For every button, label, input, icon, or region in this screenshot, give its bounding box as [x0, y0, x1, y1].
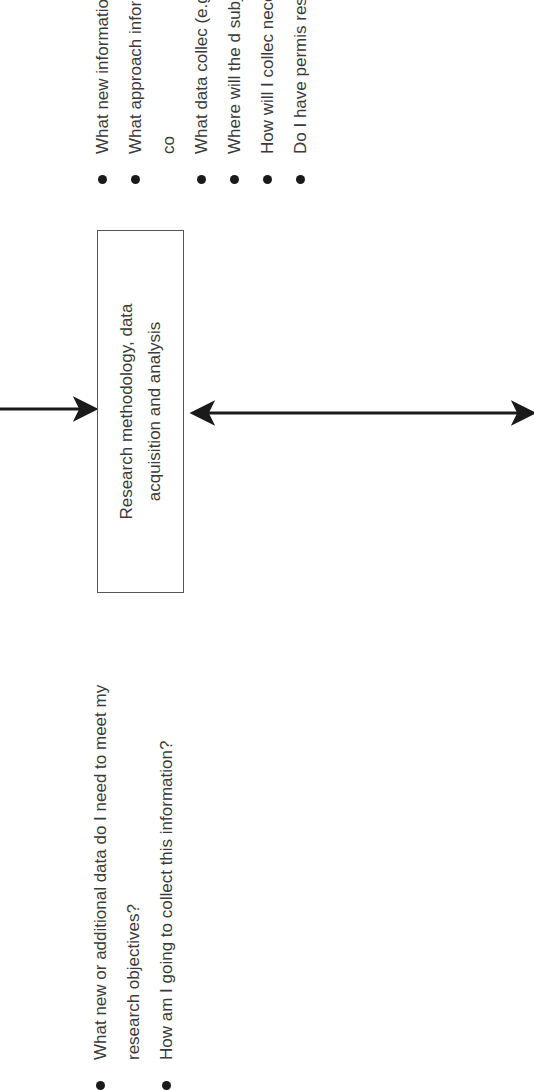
list-item-text: What approach information? (e.g. experim… — [126, 0, 178, 154]
bullet-icon — [230, 175, 239, 184]
list-item: Do I have permis research? — [284, 0, 317, 184]
list-item-text: What new or additional data do I need to… — [91, 685, 143, 1060]
list-item: What new or additional data do I need to… — [84, 620, 150, 1090]
list-item: Where will the d subjects are nee — [218, 0, 251, 184]
bullet-icon — [131, 175, 140, 184]
list-item: How will I collec necessary data? — [251, 0, 284, 184]
bullet-icon — [296, 175, 305, 184]
bullet-icon — [162, 1081, 171, 1090]
list-item-text: How am I going to collect this informati… — [157, 741, 176, 1060]
left-question-list: What new or additional data do I need to… — [84, 620, 183, 1090]
list-item: How am I going to collect this informati… — [150, 620, 183, 1090]
central-process-box: Research methodology, data acquisition a… — [97, 230, 184, 593]
list-item-text: Do I have permis research? — [291, 0, 310, 154]
list-item: What new information variables I intend — [86, 0, 119, 184]
bullet-icon — [98, 175, 107, 184]
list-item-text: What data collec (e.g., observatio — [192, 0, 211, 154]
list-item-text: Where will the d subjects are nee — [225, 0, 244, 154]
right-question-list: What new information variables I intend … — [86, 0, 317, 184]
bullet-icon — [96, 1081, 105, 1090]
list-item-text: How will I collec necessary data? — [258, 0, 277, 154]
bullet-icon — [263, 175, 272, 184]
list-item: What approach information? (e.g. experim… — [119, 0, 185, 184]
central-box-label: Research methodology, data acquisition a… — [113, 282, 169, 542]
list-item-text: What new information variables I intend — [93, 0, 112, 154]
rotated-diagram-canvas: Research methodology, data acquisition a… — [0, 0, 534, 1090]
list-item: What data collec (e.g., observatio — [185, 0, 218, 184]
bullet-icon — [197, 175, 206, 184]
